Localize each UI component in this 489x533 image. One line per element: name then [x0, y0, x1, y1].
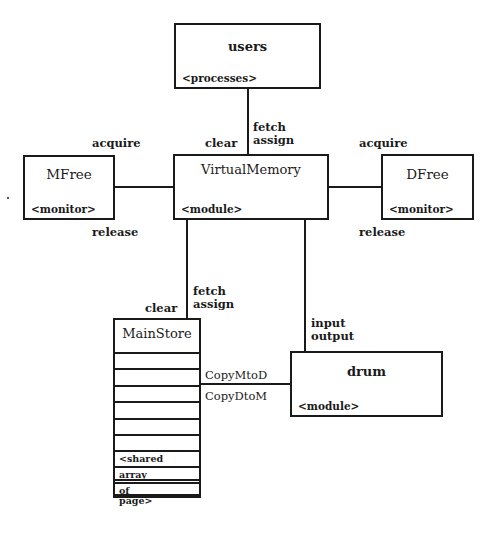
mainstore-page-row: [115, 401, 199, 418]
mfree-node: MFree <monitor>: [23, 155, 115, 220]
users-vm-label-assign: assign: [253, 134, 294, 147]
users-node-title: users: [176, 39, 319, 54]
mainstore-drum-label-copymtod: CopyMtoD: [205, 368, 267, 382]
drum-node: drum <module>: [290, 351, 443, 417]
users-vm-label-clear: clear: [205, 137, 237, 150]
mfree-node-title: MFree: [25, 166, 113, 182]
mfree-vm-label-acquire: acquire: [92, 137, 141, 150]
dfree-node-stereotype: <monitor>: [389, 203, 454, 215]
scan-dot: [7, 197, 9, 199]
mfree-node-stereotype: <monitor>: [31, 203, 96, 215]
drum-node-title: drum: [292, 364, 441, 379]
mainstore-drum-connector: [200, 383, 291, 385]
users-node-stereotype: <processes>: [182, 72, 257, 84]
users-node: users <processes>: [174, 23, 321, 89]
virtual-memory-node-title: VirtualMemory: [175, 162, 327, 177]
drum-node-stereotype: <module>: [298, 400, 359, 412]
mainstore-node: MainStore <shared array of: [113, 318, 201, 498]
users-vm-connector: [247, 88, 249, 155]
mfree-vm-label-release: release: [92, 226, 138, 239]
mainstore-page-row: [115, 434, 199, 450]
dfree-node: DFree <monitor>: [381, 154, 474, 220]
vm-mainstore-label-assign: assign: [193, 298, 234, 311]
virtual-memory-node: VirtualMemory <module>: [173, 154, 329, 220]
vm-dfree-label-acquire: acquire: [359, 137, 408, 150]
mainstore-stereotype-line: <shared: [115, 450, 199, 466]
vm-dfree-label-release: release: [359, 226, 405, 239]
vm-drum-connector: [304, 219, 306, 352]
dfree-node-title: DFree: [383, 166, 472, 182]
vm-mainstore-connector: [186, 219, 188, 319]
mainstore-stereotype-line: page>: [115, 494, 199, 510]
vm-dfree-connector: [328, 186, 382, 188]
mainstore-page-row: [115, 385, 199, 401]
mainstore-page-row: [115, 368, 199, 385]
mainstore-page-row: [115, 352, 199, 368]
vm-drum-label-output: output: [311, 330, 354, 343]
mfree-vm-connector: [114, 186, 174, 188]
mainstore-drum-label-copydtom: CopyDtoM: [205, 389, 267, 403]
mainstore-page-row: [115, 418, 199, 434]
vm-mainstore-label-clear: clear: [145, 302, 177, 315]
virtual-memory-node-stereotype: <module>: [181, 203, 242, 215]
mainstore-node-title: MainStore: [115, 326, 199, 341]
